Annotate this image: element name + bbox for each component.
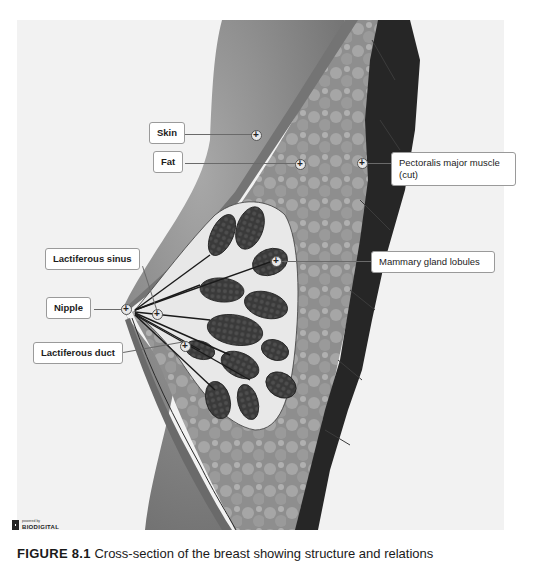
marker-lactiferous-duct[interactable]: + <box>180 341 191 352</box>
label-pectoralis-major[interactable]: Pectoralis major muscle (cut) <box>391 152 516 186</box>
label-mammary-gland-lobules[interactable]: Mammary gland lobules <box>371 251 495 273</box>
figure-caption-text: Cross-section of the breast showing stru… <box>94 546 433 561</box>
fat-leader-line <box>185 163 300 164</box>
biodigital-logo: powered by BIODIGITAL <box>12 520 59 530</box>
biodigital-logo-icon <box>12 520 19 530</box>
marker-pectoralis-major[interactable]: + <box>357 158 368 169</box>
marker-lactiferous-sinus[interactable]: + <box>152 309 163 320</box>
marker-skin[interactable]: + <box>251 130 262 141</box>
label-nipple[interactable]: Nipple <box>46 297 91 319</box>
marker-nipple[interactable]: + <box>121 304 132 315</box>
label-lactiferous-sinus[interactable]: Lactiferous sinus <box>45 248 140 270</box>
logo-name: BIODIGITAL <box>22 524 59 530</box>
figure-caption: FIGURE 8.1 Cross-section of the breast s… <box>17 546 433 561</box>
figure-number: FIGURE 8.1 <box>17 546 91 561</box>
label-lactiferous-duct[interactable]: Lactiferous duct <box>33 342 123 364</box>
marker-mammary-gland-lobules[interactable]: + <box>271 256 282 267</box>
marker-fat[interactable]: + <box>295 159 306 170</box>
mammary-leader-line <box>276 261 372 262</box>
skin-leader-line <box>185 134 257 135</box>
label-fat[interactable]: Fat <box>153 151 183 173</box>
label-skin[interactable]: Skin <box>149 122 185 144</box>
